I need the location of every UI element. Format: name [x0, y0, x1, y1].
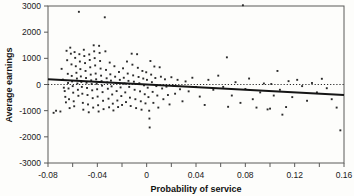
data-point [114, 76, 116, 78]
data-point [148, 118, 150, 120]
data-point [97, 96, 99, 98]
data-point [128, 86, 130, 88]
data-point [151, 81, 153, 83]
data-point [111, 85, 113, 87]
data-point [217, 75, 219, 77]
data-point [141, 70, 143, 72]
data-point [79, 68, 81, 70]
fit-line [48, 79, 344, 95]
data-point [100, 75, 102, 77]
data-point [124, 91, 126, 93]
data-point [129, 97, 131, 99]
data-point [93, 50, 95, 52]
data-point [104, 16, 106, 18]
data-point [73, 100, 75, 102]
data-point [311, 82, 313, 84]
data-point [94, 64, 96, 66]
data-point [133, 81, 135, 83]
data-point [82, 109, 84, 111]
data-point [167, 94, 169, 96]
data-point [64, 90, 66, 92]
data-point [144, 93, 146, 95]
data-point [154, 77, 156, 79]
y-tick-label: 3000 [22, 1, 41, 11]
data-point [82, 102, 84, 104]
data-point [85, 77, 87, 79]
data-point [301, 85, 303, 87]
data-point [105, 69, 107, 71]
data-point [111, 94, 113, 96]
data-point [159, 66, 161, 68]
data-point [61, 68, 63, 70]
data-point [141, 109, 143, 111]
data-point [120, 95, 122, 97]
y-tick-label: 1000 [22, 53, 41, 63]
data-point [256, 107, 258, 109]
data-point [127, 73, 129, 75]
data-point [63, 87, 65, 89]
data-point [117, 106, 119, 108]
data-point [119, 79, 121, 81]
data-point [98, 45, 100, 47]
data-point [93, 44, 95, 46]
data-point [204, 104, 206, 106]
data-point [118, 71, 120, 73]
data-point [131, 53, 133, 55]
data-point [240, 102, 242, 104]
data-point [72, 92, 74, 94]
data-point [336, 107, 338, 109]
data-point [106, 77, 108, 79]
data-point [134, 98, 136, 100]
data-point [177, 79, 179, 81]
y-tick-label: 2000 [22, 27, 41, 37]
data-point [77, 89, 79, 91]
data-point [68, 98, 70, 100]
data-point [87, 94, 89, 96]
data-point [135, 107, 137, 109]
data-point [53, 112, 55, 114]
data-point [226, 56, 228, 58]
data-point [103, 108, 105, 110]
data-point [269, 108, 271, 110]
data-point [94, 57, 96, 59]
data-point [75, 72, 77, 74]
data-point [145, 71, 147, 73]
data-point [59, 111, 61, 113]
data-point [149, 127, 151, 129]
data-point [321, 78, 323, 80]
data-point [107, 88, 109, 90]
data-point [72, 85, 74, 87]
data-point [263, 83, 265, 85]
data-point [199, 96, 201, 98]
y-tick-label: -1000 [19, 106, 41, 116]
chart-screenshot: -3000-2000-10000100020003000 -0.08-0.040… [0, 0, 354, 196]
data-point [89, 59, 91, 61]
data-point [71, 63, 73, 65]
data-point [121, 104, 123, 106]
data-point [88, 111, 90, 113]
data-point [137, 67, 139, 69]
data-point [67, 82, 69, 84]
data-point [84, 62, 86, 64]
data-point [96, 88, 98, 90]
data-point [86, 87, 88, 89]
data-point [267, 108, 269, 110]
data-point [248, 78, 250, 80]
data-point [80, 75, 82, 77]
data-point [281, 114, 283, 116]
data-point [81, 86, 83, 88]
data-point [120, 86, 122, 88]
data-point [75, 65, 77, 67]
data-point [116, 90, 118, 92]
data-point [242, 4, 244, 6]
data-point [182, 100, 184, 102]
data-point [235, 81, 237, 83]
data-point [100, 68, 102, 70]
data-point [74, 57, 76, 59]
x-tick-label: -0.04 [88, 170, 108, 180]
data-point [112, 103, 114, 105]
data-point [142, 78, 144, 80]
data-point [102, 91, 104, 93]
data-point [69, 107, 71, 109]
regression-line [48, 79, 344, 95]
